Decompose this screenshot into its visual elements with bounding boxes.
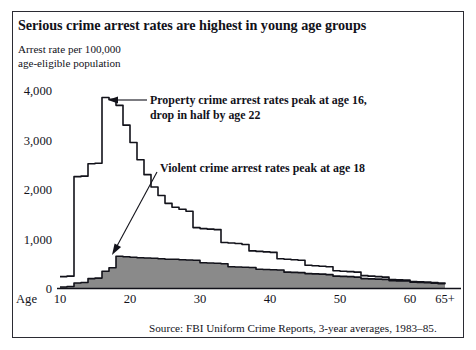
x-axis-prefix-label: Age [16,292,37,306]
chart-series-layer [60,97,445,288]
property-callout-line2: drop in half by age 22 [150,108,261,122]
series-area [60,256,445,288]
property-callout-leader [108,96,147,103]
y-tick-label: 4,000 [24,84,52,98]
violent-callout-leader [112,172,157,255]
x-tick-label: 65+ [435,292,455,306]
y-axis-tick-labels: 01,0002,0003,0004,000 [24,84,52,296]
source-note: Source: FBI Uniform Crime Reports, 3-yea… [149,322,437,334]
violent-callout-line1: Violent crime arrest rates peak at age 1… [160,161,365,175]
x-tick-label: 40 [264,292,277,306]
y-tick-label: 2,000 [24,183,52,197]
chart-plot: 01,0002,0003,0004,000 10203040506065+ Ag… [0,0,476,350]
y-tick-label: 0 [46,282,52,296]
y-tick-label: 1,000 [24,233,52,247]
x-tick-label: 20 [124,292,137,306]
x-tick-label: 30 [194,292,207,306]
x-tick-label: 10 [54,292,67,306]
y-tick-label: 3,000 [24,134,52,148]
property-callout-line1: Property crime arrest rates peak at age … [150,93,367,107]
x-tick-label: 50 [334,292,347,306]
x-tick-label: 60 [404,292,417,306]
x-axis-tick-labels: 10203040506065+ [54,292,455,306]
chart-figure: Serious crime arrest rates are highest i… [0,0,476,350]
